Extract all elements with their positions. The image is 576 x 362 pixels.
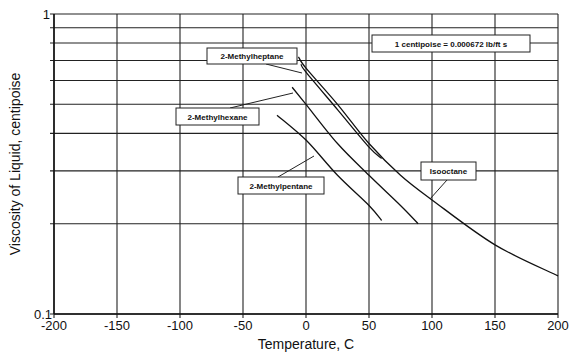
leader-methylhexane: [230, 93, 293, 108]
x-tick: -150: [104, 318, 130, 333]
conversion-note: 1 centipoise = 0.000672 lb/ft s: [395, 40, 508, 49]
x-tick: 100: [421, 318, 443, 333]
x-tick: 200: [547, 318, 569, 333]
curve-2-methylpentane: [277, 115, 382, 220]
x-axis-label: Temperature, C: [258, 336, 354, 352]
curves: [277, 57, 558, 276]
grid: [50, 14, 558, 318]
viscosity-chart: 1 0.1 -200 -150 -100 -50 0 50 100 150 20…: [0, 0, 576, 362]
label-methylpentane: 2-Methylpentane: [249, 182, 313, 191]
curve-2-methylhexane: [292, 87, 418, 223]
leader-methylpentane: [278, 156, 314, 177]
y-tick-1: 1: [43, 7, 50, 22]
leader-methylheptane: [266, 64, 302, 73]
x-tick: -200: [41, 318, 67, 333]
label-methylheptane: 2-Methylheptane: [220, 52, 284, 61]
x-tick: -100: [167, 318, 193, 333]
x-tick: 150: [484, 318, 506, 333]
y-axis-label: Viscosity of Liquid, centipoise: [7, 72, 23, 255]
x-tick: -50: [234, 318, 253, 333]
label-methylhexane: 2-Methylhexane: [187, 113, 248, 122]
label-isooctane: Isooctane: [430, 167, 468, 176]
x-tick: 0: [302, 318, 309, 333]
x-tick-labels: -200 -150 -100 -50 0 50 100 150 200: [41, 318, 569, 333]
x-tick: 50: [362, 318, 376, 333]
